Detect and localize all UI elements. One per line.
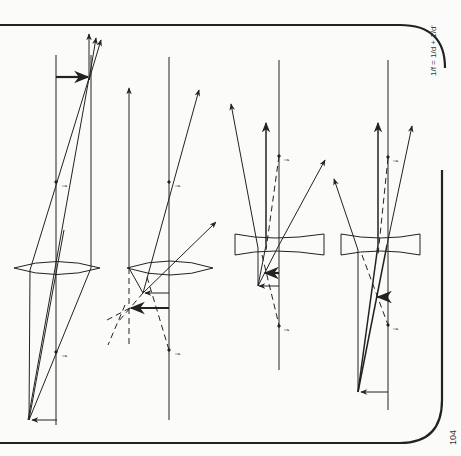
lens-formula: 1/f = 1/d + 1/d' — [429, 25, 438, 76]
diverging-lens-icon — [341, 234, 420, 255]
converging-lens-icon — [127, 261, 213, 275]
svg-text:f: f — [283, 329, 290, 331]
svg-text:f: f — [174, 185, 181, 187]
svg-text:f: f — [61, 355, 68, 357]
svg-text:f: f — [174, 353, 181, 355]
diagram-diverging-far — [334, 60, 420, 410]
ray-diagram-figure: f f f f f f f f 1/f = 1/d + 1/d' 104 — [0, 0, 461, 456]
diagram-converging-real — [14, 34, 101, 425]
svg-text:f: f — [61, 185, 68, 187]
svg-text:f: f — [392, 160, 399, 162]
page-number: 104 — [448, 430, 458, 445]
diagram-diverging-near — [231, 60, 325, 370]
diagram-converging-virtual — [107, 57, 216, 420]
svg-text:f: f — [392, 328, 399, 330]
focal-labels: f f f f f f f f — [61, 159, 399, 357]
svg-text:f: f — [283, 159, 290, 161]
